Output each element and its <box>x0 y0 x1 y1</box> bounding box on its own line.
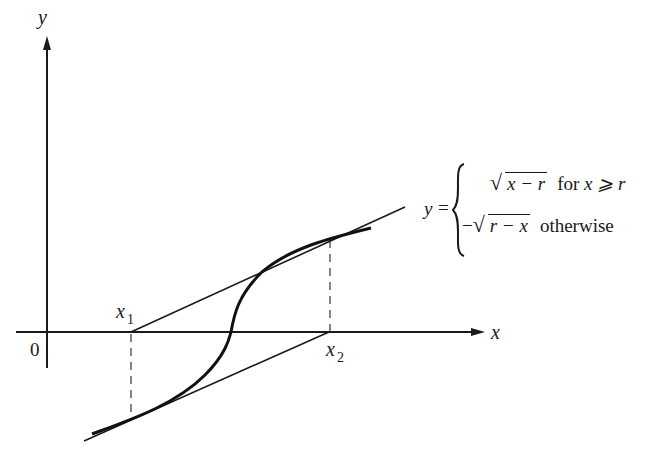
case-1-for: for <box>557 173 579 194</box>
y-axis-arrow-icon <box>43 36 51 50</box>
formula-lhs: y <box>424 198 432 220</box>
case-1-condition: x ⩾ r <box>584 173 625 194</box>
formula-case-2: −√r − xotherwise <box>462 214 614 237</box>
x1-label: x <box>115 300 125 322</box>
piecewise-formula: y = √x − rfor x ⩾ r −√r − xotherwise <box>420 162 667 272</box>
origin-label: 0 <box>30 339 40 360</box>
left-brace-icon <box>452 162 466 258</box>
x-axis-arrow-icon <box>471 328 485 336</box>
formula-case-1: √x − rfor x ⩾ r <box>490 172 625 195</box>
x1-subscript: 1 <box>127 312 134 327</box>
x-axis-label: x <box>490 321 500 343</box>
case-2-sign: − <box>462 215 473 236</box>
sqrt-x-minus-r: √x − r <box>490 172 547 195</box>
x2-label: x <box>325 338 335 360</box>
case-2-condition: otherwise <box>540 215 614 236</box>
sqrt-r-minus-x: √r − x <box>473 214 530 237</box>
y-axis-label: y <box>36 6 47 29</box>
formula-equals: = <box>438 197 449 219</box>
x2-subscript: 2 <box>337 350 344 365</box>
upper-tangent-line <box>131 207 405 332</box>
